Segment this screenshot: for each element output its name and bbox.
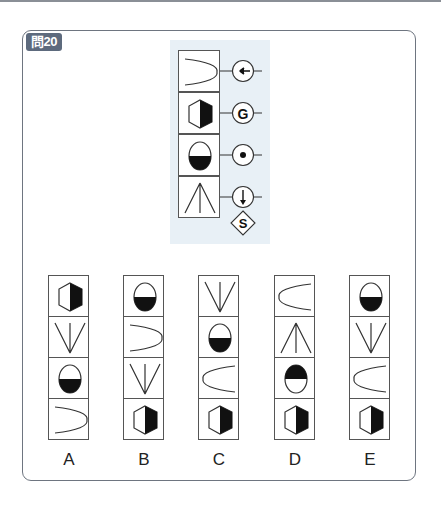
parabola-right-icon [49, 399, 91, 441]
arrow-down-fan-icon [124, 358, 166, 400]
hexagon-right-black-icon [49, 276, 91, 318]
oval-bottom-black-icon [199, 317, 241, 359]
oval-bottom-black-icon [179, 135, 221, 177]
option-e-cell-1 [349, 275, 390, 317]
parabola-right-icon [179, 51, 221, 93]
option-d-cell-3 [274, 357, 315, 399]
option-c-cell-1 [198, 275, 239, 317]
arrow-down-fan-icon [350, 317, 392, 359]
arrow-down-fan-icon [199, 276, 241, 318]
svg-text:S: S [239, 216, 248, 231]
question-cell-3 [178, 134, 220, 176]
option-b-cell-1 [123, 275, 164, 317]
operator-arrow-left [220, 56, 290, 86]
problem-badge: 問20 [26, 33, 62, 51]
option-c-cell-3 [198, 357, 239, 399]
operator-circle-icon [220, 182, 290, 212]
oval-bottom-black-icon [350, 276, 392, 318]
question-cell-1 [178, 50, 220, 92]
arrow-up-fan-icon [179, 177, 221, 219]
option-d-cell-4 [274, 398, 315, 440]
hexagon-right-black-icon [179, 93, 221, 135]
operator-letter: G [220, 98, 290, 128]
oval-top-black-icon [275, 358, 317, 400]
operator-arrow-down [220, 182, 290, 212]
operator-circle-icon: G [220, 98, 290, 128]
option-a-cell-2 [48, 316, 89, 358]
oval-bottom-black-icon [49, 358, 91, 400]
hexagon-right-black-icon [124, 399, 166, 441]
operator-circle-icon [220, 140, 290, 170]
arrow-down-fan-icon [49, 317, 91, 359]
hexagon-right-black-icon [350, 399, 392, 441]
option-c-cell-2 [198, 316, 239, 358]
option-b-cell-3 [123, 357, 164, 399]
parabola-left-icon [350, 358, 392, 400]
option-d-cell-2 [274, 316, 315, 358]
option-e-cell-4 [349, 398, 390, 440]
operator-letter: G [238, 106, 249, 122]
option-e-cell-3 [349, 357, 390, 399]
top-rule [0, 0, 441, 2]
option-a-cell-3 [48, 357, 89, 399]
option-label-d[interactable]: D [275, 450, 315, 470]
parabola-left-icon [199, 358, 241, 400]
option-e-cell-2 [349, 316, 390, 358]
option-b-cell-2 [123, 316, 164, 358]
option-label-b[interactable]: B [124, 450, 164, 470]
result-diamond: S [230, 209, 300, 239]
oval-bottom-black-icon [124, 276, 166, 318]
option-c-cell-4 [198, 398, 239, 440]
option-label-a[interactable]: A [49, 450, 89, 470]
option-label-e[interactable]: E [350, 450, 390, 470]
parabola-left-icon [275, 276, 317, 318]
diamond-icon: S [230, 209, 260, 239]
question-cell-4 [178, 176, 220, 218]
question-cell-2 [178, 92, 220, 134]
option-a-cell-4 [48, 398, 89, 440]
option-label-c[interactable]: C [199, 450, 239, 470]
operator-circle-icon [220, 56, 290, 86]
option-a-cell-1 [48, 275, 89, 317]
parabola-right-icon [124, 317, 166, 359]
option-d-cell-1 [274, 275, 315, 317]
operator-dot [220, 140, 290, 170]
hexagon-right-black-icon [275, 399, 317, 441]
hexagon-right-black-icon [199, 399, 241, 441]
arrow-up-fan-icon [275, 317, 317, 359]
option-b-cell-4 [123, 398, 164, 440]
